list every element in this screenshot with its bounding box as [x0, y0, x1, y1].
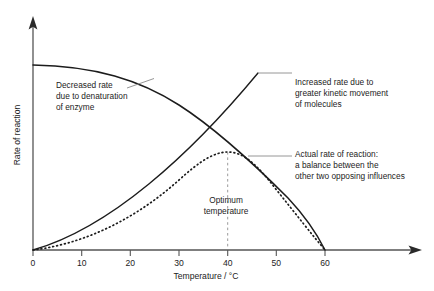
annotation-increased-rate-line-3: of molecules	[295, 99, 388, 110]
y-axis-title: Rate of reaction	[12, 80, 22, 190]
xtick-label-30: 30	[166, 258, 192, 268]
annotation-decreased-rate: Decreased rate due to denaturation of en…	[56, 80, 128, 113]
annotation-increased-rate: Increased rate due to greater kinetic mo…	[295, 77, 388, 110]
annotation-decreased-rate-line-1: Decreased rate	[56, 80, 128, 91]
x-axis-title: Temperature / °C	[96, 271, 316, 281]
annotation-decreased-rate-line-2: due to denaturation	[56, 91, 128, 102]
annotation-actual-rate-line-2: a balance between the	[295, 160, 405, 171]
annotation-actual-rate-line-1: Actual rate of reaction:	[295, 149, 405, 160]
annotation-optimum-temperature-line-1: Optimum	[176, 195, 276, 206]
annotation-optimum-temperature: Optimum temperature	[176, 195, 276, 217]
xtick-label-60: 60	[312, 258, 338, 268]
xtick-label-50: 50	[263, 258, 289, 268]
chart-canvas	[0, 0, 434, 291]
annotation-actual-rate: Actual rate of reaction: a balance betwe…	[295, 149, 405, 182]
xtick-label-40: 40	[215, 258, 241, 268]
xtick-label-20: 20	[117, 258, 143, 268]
leader-line-decreased	[127, 79, 154, 89]
annotation-optimum-temperature-line-2: temperature	[176, 206, 276, 217]
xtick-label-0: 0	[20, 258, 46, 268]
y-axis	[29, 16, 38, 250]
enzyme-rate-temperature-chart: 0 10 20 30 40 50 60 Temperature / °C Rat…	[0, 0, 434, 291]
annotation-decreased-rate-line-3: of enzyme	[56, 102, 128, 113]
xtick-label-10: 10	[69, 258, 95, 268]
x-axis-ticks	[33, 250, 325, 256]
annotation-increased-rate-line-1: Increased rate due to	[295, 77, 388, 88]
annotation-increased-rate-line-2: greater kinetic movement	[295, 88, 388, 99]
annotation-actual-rate-line-3: other two opposing influences	[295, 171, 405, 182]
